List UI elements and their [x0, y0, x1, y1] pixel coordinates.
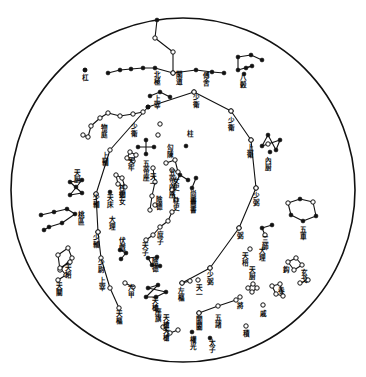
constellation-label: 少衛: [227, 116, 235, 132]
star-marker-filled: [144, 152, 148, 156]
constellation-label: 柱: [187, 129, 194, 138]
label-char: 弼: [253, 198, 260, 207]
constellation-label: 大理: [259, 246, 266, 262]
constellation-label: 權光: [189, 335, 197, 351]
star-marker-open: [300, 263, 304, 267]
star-marker-open: [311, 200, 315, 204]
star-marker-filled: [164, 290, 168, 294]
constellation-label: 少尉: [97, 258, 105, 274]
constellation-label: 鈎: [283, 265, 290, 274]
star-marker-filled: [144, 138, 148, 142]
label-char: 戚: [260, 309, 267, 318]
star-marker-filled: [274, 148, 278, 152]
label-char: 光: [189, 342, 197, 351]
star-marker-filled: [155, 18, 159, 22]
label-char: 闔: [196, 322, 203, 331]
label-char: 樞: [116, 316, 123, 325]
constellation-label: 天槍: [162, 327, 170, 342]
constellation-label: 左樞: [177, 286, 185, 302]
star-marker-filled: [83, 68, 87, 72]
label-char: 旗: [155, 314, 162, 323]
constellation-label: 御女: [118, 190, 126, 206]
star-marker-open: [266, 142, 270, 146]
constellation-line: [155, 38, 173, 52]
constellation-label: 物庭: [101, 123, 108, 139]
constellation-label: 座旗: [155, 307, 162, 323]
star-marker-filled: [146, 105, 150, 109]
label-char: 床: [107, 200, 114, 209]
constellation-label: 杠: [82, 73, 89, 82]
constellation-label: 陰德: [151, 257, 159, 273]
star-marker-open: [197, 311, 201, 315]
constellation-line: [155, 20, 157, 38]
star-chart-canvas: 杠北極閣道傅舍八穀上宰少衛物庭少衛少衛上衛內厨上輔勾陳五帝座天牢柱五帝內座天厨女…: [0, 0, 366, 377]
constellation-label: 戚: [260, 309, 267, 318]
constellation-label: 北極: [153, 70, 161, 86]
label-char: 德: [151, 264, 159, 273]
constellation-label: 天子: [142, 242, 149, 257]
star-marker-open: [246, 286, 250, 290]
label-char: 極: [153, 77, 161, 86]
label-char: 將: [237, 301, 244, 310]
label-char: 區: [78, 217, 85, 226]
label-char: 厨: [249, 272, 256, 281]
constellation-label: 上宰: [154, 94, 161, 110]
star-marker-filled: [260, 144, 264, 148]
star-marker-filled: [146, 286, 150, 290]
star-marker-filled: [314, 214, 318, 218]
constellation-label: 天棓: [242, 252, 249, 267]
label-char: 子: [209, 346, 216, 354]
star-marker-filled: [184, 144, 188, 148]
star-marker-open: [250, 290, 254, 294]
star-marker-filled: [186, 178, 190, 182]
label-char: 輔: [93, 200, 100, 209]
star-marker-open: [292, 268, 296, 272]
star-marker-filled: [158, 90, 162, 94]
star-marker-filled: [52, 210, 56, 214]
label-char: 子: [142, 249, 149, 257]
label-char: 尉: [98, 265, 105, 274]
constellation-line: [148, 288, 166, 292]
star-marker-filled: [141, 66, 145, 70]
star-marker-open: [128, 150, 132, 154]
star-marker-open: [176, 328, 180, 332]
horizon-circle: [11, 18, 355, 362]
label-char: 樞: [178, 293, 185, 302]
constellation-label: 伏戲: [119, 236, 126, 252]
star-marker-filled: [266, 133, 270, 137]
label-char: 宰: [154, 101, 161, 110]
constellation-label: 天厨: [74, 169, 81, 184]
star-marker-open: [188, 279, 192, 283]
constellation-label: 卷: [278, 286, 285, 295]
constellation-label: 六甲: [128, 283, 135, 299]
constellation-label: 五諸: [215, 314, 222, 329]
star-marker-open: [261, 303, 265, 307]
label-char: 子: [157, 238, 164, 246]
star-marker-open: [148, 208, 152, 212]
constellation-label: 少弼: [206, 270, 214, 286]
star-marker-open: [151, 233, 155, 237]
star-marker-filled: [249, 53, 253, 57]
star-marker-open: [249, 138, 253, 142]
star-marker-open: [106, 111, 110, 115]
constellation-label: 女史: [173, 176, 180, 192]
star-marker-open: [171, 50, 175, 54]
constellation-label: 內厨: [265, 156, 272, 172]
star-marker-filled: [152, 145, 156, 149]
label-char: 戲: [119, 243, 126, 252]
star-marker-open: [166, 219, 170, 223]
label-char: 女: [119, 197, 126, 206]
star-marker-open: [150, 194, 154, 198]
star-marker-filled: [289, 213, 293, 217]
star-marker-open: [255, 286, 259, 290]
star-marker-filled: [298, 197, 302, 201]
star-marker-filled: [148, 94, 152, 98]
constellation-label: 上衛: [246, 143, 254, 159]
star-marker-filled: [222, 71, 226, 75]
label-char: 棓: [65, 270, 72, 279]
constellation-label: 將: [237, 301, 244, 310]
constellation-label: 天關: [56, 282, 63, 297]
star-marker-filled: [236, 55, 240, 59]
label-char: 厨: [265, 163, 272, 172]
star-marker-open: [81, 133, 85, 137]
